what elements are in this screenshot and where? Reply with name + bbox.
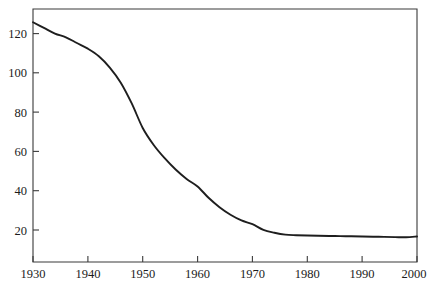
y-axis-ticks bbox=[33, 34, 39, 230]
x-tick-label: 1940 bbox=[75, 267, 100, 281]
x-tick-label: 1980 bbox=[295, 267, 320, 281]
y-tick-label: 100 bbox=[8, 66, 27, 80]
y-tick-label: 80 bbox=[15, 106, 28, 120]
y-axis-tick-labels: 120 100 80 60 40 20 bbox=[8, 27, 27, 237]
y-tick-label: 20 bbox=[15, 224, 28, 238]
y-tick-label: 40 bbox=[15, 184, 28, 198]
y-tick-label: 120 bbox=[8, 27, 27, 41]
chart-figure: 120 100 80 60 40 20 1930 1940 1950 1960 … bbox=[0, 0, 432, 300]
y-tick-label: 60 bbox=[15, 145, 28, 159]
x-axis-tick-labels: 1930 1940 1950 1960 1970 1980 1990 2000 bbox=[21, 267, 427, 281]
line-chart: 120 100 80 60 40 20 1930 1940 1950 1960 … bbox=[0, 0, 432, 300]
x-tick-label: 1930 bbox=[21, 267, 46, 281]
x-tick-label: 1970 bbox=[240, 267, 265, 281]
x-tick-label: 1990 bbox=[350, 267, 375, 281]
x-tick-label: 1950 bbox=[130, 267, 155, 281]
data-series-line bbox=[33, 22, 417, 237]
x-tick-label: 1960 bbox=[185, 267, 210, 281]
axes-frame bbox=[33, 9, 417, 262]
x-axis-ticks bbox=[33, 256, 417, 262]
x-tick-label: 2000 bbox=[402, 267, 427, 281]
